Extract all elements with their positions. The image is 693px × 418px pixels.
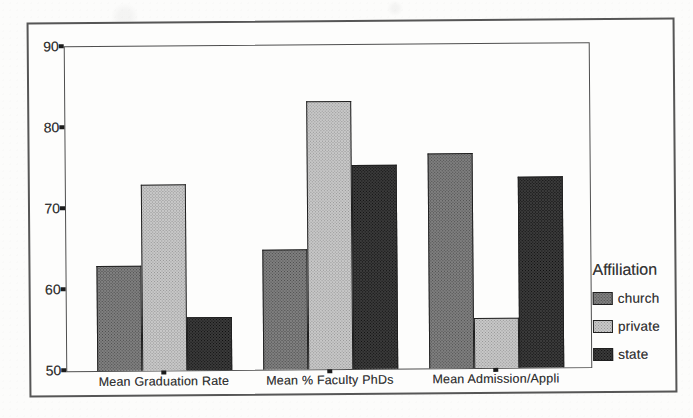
bar-state — [352, 165, 399, 369]
scanned-chart-page: { "chart_data": { "type": "bar", "title"… — [0, 0, 693, 418]
x-category-label: Mean Admission/Appli — [432, 371, 559, 386]
bar-private — [306, 101, 353, 369]
legend-item-church: church — [593, 290, 673, 305]
legend-items: churchprivatestate — [593, 290, 674, 361]
x-category-label: Mean Graduation Rate — [99, 374, 230, 389]
y-tick-mark — [61, 368, 66, 372]
y-tick-label: 50 — [33, 361, 61, 379]
legend: Affiliation churchprivatestate — [592, 260, 673, 375]
y-tick-mark — [59, 44, 64, 48]
legend-swatch-church — [593, 291, 613, 304]
legend-title: Affiliation — [592, 260, 672, 278]
bar-church — [262, 249, 308, 369]
bars-container — [65, 43, 592, 371]
legend-item-private: private — [593, 318, 673, 333]
y-tick-label: 70 — [32, 199, 60, 217]
bar-state — [518, 176, 564, 368]
bar-private — [474, 317, 519, 368]
legend-label: state — [618, 346, 648, 361]
bar-cluster — [96, 184, 232, 371]
legend-swatch-state — [593, 347, 613, 360]
y-axis: 5060708090 — [29, 19, 673, 24]
x-tick-mark — [493, 368, 498, 372]
bar-cluster — [428, 153, 565, 369]
x-category-label: Mean % Faculty PhDs — [266, 373, 394, 388]
y-tick-mark — [61, 287, 66, 291]
y-tick-mark — [60, 206, 65, 210]
legend-label: church — [618, 290, 660, 305]
bar-cluster — [261, 101, 398, 370]
x-tick-mark — [161, 370, 166, 374]
y-tick-label: 60 — [33, 280, 61, 298]
legend-swatch-private — [593, 319, 613, 332]
x-tick-mark — [327, 369, 332, 373]
chart-frame: 5060708090 Mean Graduation RateMean % Fa… — [27, 17, 678, 397]
bar-church — [96, 265, 142, 371]
legend-item-state: state — [593, 346, 673, 361]
y-tick-label: 90 — [31, 37, 59, 55]
x-axis: Mean Graduation RateMean % Faculty PhDsM… — [29, 19, 673, 24]
y-tick-label: 80 — [31, 118, 59, 136]
legend-label: private — [618, 318, 660, 333]
bar-church — [428, 153, 475, 368]
bar-state — [187, 316, 232, 370]
plot-area — [64, 42, 593, 372]
y-tick-mark — [59, 125, 64, 129]
bar-private — [141, 184, 187, 371]
